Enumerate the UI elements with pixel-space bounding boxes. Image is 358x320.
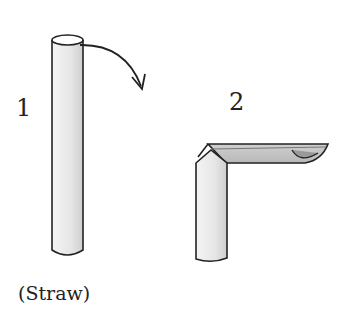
diagram-canvas (0, 0, 358, 320)
step-2-label: 2 (229, 88, 244, 116)
straw-bent (196, 144, 328, 261)
straw-straight (52, 35, 83, 255)
straw-caption: (Straw) (18, 282, 90, 304)
fold-arrow-icon (80, 45, 145, 89)
step-1-label: 1 (16, 94, 31, 122)
